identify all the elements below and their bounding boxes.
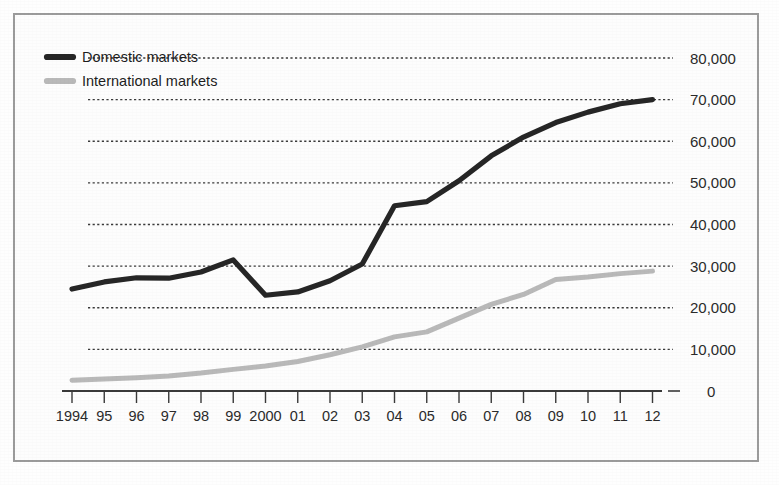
x-tick-label-97: 97 xyxy=(161,408,177,424)
x-tick-label-99: 99 xyxy=(225,408,241,424)
gridlines-group xyxy=(88,58,673,349)
x-axis-tick-labels-group: 1994959697989920000102030405060708091011… xyxy=(56,408,661,424)
x-tick-label-10: 10 xyxy=(580,408,596,424)
y-tick-label-10000: 10,000 xyxy=(690,341,736,358)
y-tick-label-40000: 40,000 xyxy=(690,216,736,233)
x-tick-marks-group xyxy=(72,392,653,403)
x-tick-label-12: 12 xyxy=(644,408,660,424)
y-tick-label-50000: 50,000 xyxy=(690,174,736,191)
line-chart: 010,00020,00030,00040,00050,00060,00070,… xyxy=(0,0,779,485)
x-tick-label-03: 03 xyxy=(354,408,370,424)
x-tick-label-09: 09 xyxy=(548,408,564,424)
x-tick-label-2000: 2000 xyxy=(249,408,281,424)
series-line-international-markets xyxy=(72,271,653,380)
x-tick-label-1994: 1994 xyxy=(56,408,88,424)
x-tick-label-02: 02 xyxy=(322,408,338,424)
x-tick-label-96: 96 xyxy=(128,408,144,424)
y-axis-tick-labels-group: 010,00020,00030,00040,00050,00060,00070,… xyxy=(690,50,736,400)
x-tick-label-07: 07 xyxy=(483,408,499,424)
chart-legend: Domestic marketsInternational markets xyxy=(47,49,217,89)
y-tick-label-60000: 60,000 xyxy=(690,133,736,150)
x-tick-label-01: 01 xyxy=(290,408,306,424)
x-tick-label-06: 06 xyxy=(451,408,467,424)
y-tick-label-70000: 70,000 xyxy=(690,91,736,108)
x-tick-label-98: 98 xyxy=(193,408,209,424)
x-tick-label-08: 08 xyxy=(515,408,531,424)
y-tick-label-30000: 30,000 xyxy=(690,258,736,275)
legend-label-domestic-markets: Domestic markets xyxy=(82,49,198,65)
legend-label-international-markets: International markets xyxy=(82,73,217,89)
figure-root: 010,00020,00030,00040,00050,00060,00070,… xyxy=(0,0,779,485)
x-tick-label-11: 11 xyxy=(613,408,628,424)
y-tick-label-80000: 80,000 xyxy=(690,50,736,67)
x-tick-label-95: 95 xyxy=(96,408,112,424)
x-tick-label-04: 04 xyxy=(386,408,402,424)
y-tick-label-20000: 20,000 xyxy=(690,299,736,316)
x-tick-label-05: 05 xyxy=(419,408,435,424)
y-tick-label-0: 0 xyxy=(707,383,715,400)
